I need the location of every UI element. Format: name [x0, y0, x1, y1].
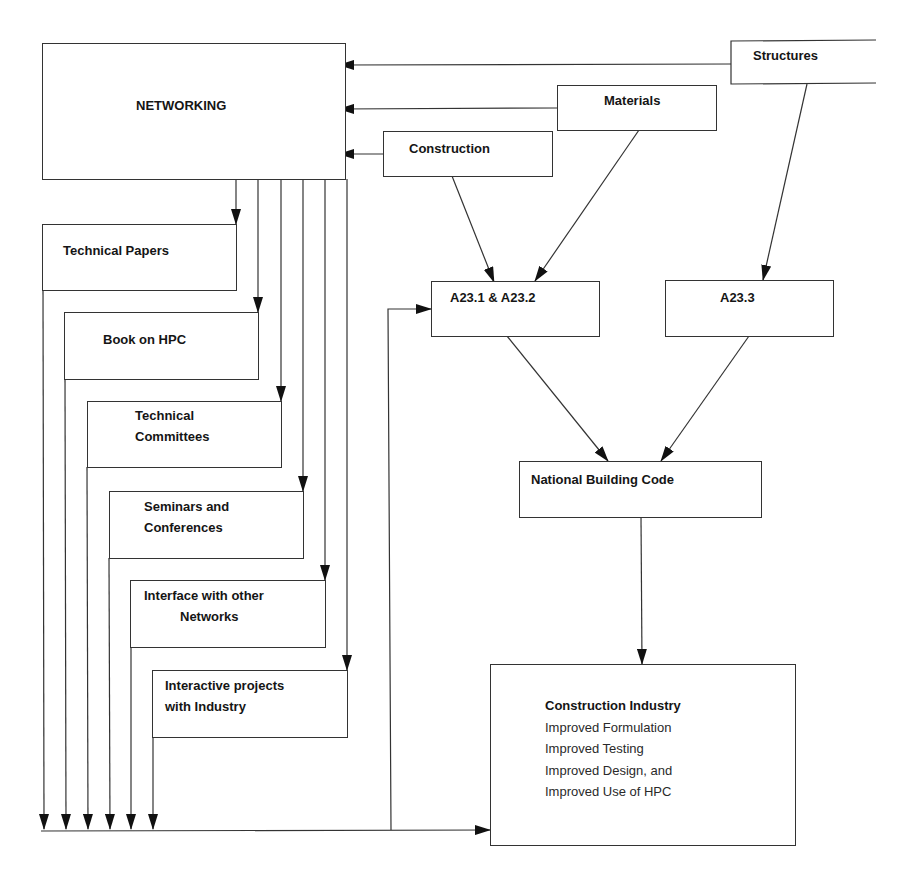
ci-item: Improved Use of HPC: [545, 781, 681, 803]
ci-item: Improved Formulation: [545, 717, 681, 739]
a23-3-box: A23.3: [665, 280, 834, 337]
technical-committees-line2: Committees: [135, 427, 209, 446]
interactive-line1: Interactive projects: [165, 676, 284, 695]
ci-item: Improved Design, and: [545, 760, 681, 782]
structures-label: Structures: [753, 46, 818, 65]
technical-papers-label: Technical Papers: [63, 241, 169, 260]
technical-papers-box: Technical Papers: [42, 224, 237, 291]
interface-line1: Interface with other: [144, 586, 264, 605]
seminars-line1: Seminars and: [144, 497, 229, 516]
materials-box: Materials: [557, 85, 717, 131]
arrow-bus-to-a23-1: [388, 309, 431, 830]
arrow-structures-to-networking: [339, 64, 731, 65]
ci-item: Improved Testing: [545, 738, 681, 760]
technical-committees-box: Technical Committees: [87, 401, 282, 468]
interface-box: Interface with other Networks: [130, 580, 326, 648]
a23-1-a23-2-label: A23.1 & A23.2: [450, 288, 536, 307]
interface-line2: Networks: [180, 607, 239, 626]
construction-label: Construction: [409, 139, 490, 158]
arrow-materials-to-networking: [339, 108, 557, 109]
book-on-hpc-box: Book on HPC: [64, 312, 259, 380]
interactive-box: Interactive projects with Industry: [152, 670, 348, 738]
seminars-box: Seminars and Conferences: [109, 491, 304, 559]
arrow-bus-to-construction-industry: [41, 830, 490, 831]
interactive-line2: with Industry: [165, 697, 246, 716]
construction-industry-text: Construction Industry Improved Formulati…: [545, 695, 681, 803]
technical-committees-line1: Technical: [135, 406, 194, 425]
national-building-code-box: National Building Code: [519, 461, 762, 518]
construction-box: Construction: [383, 131, 553, 177]
networking-box: NETWORKING: [42, 43, 346, 180]
a23-3-label: A23.3: [720, 288, 755, 307]
materials-label: Materials: [604, 91, 660, 110]
a23-1-a23-2-box: A23.1 & A23.2: [431, 281, 600, 337]
seminars-line2: Conferences: [144, 518, 223, 537]
networking-label: NETWORKING: [136, 96, 226, 115]
book-on-hpc-label: Book on HPC: [103, 330, 186, 349]
national-building-code-label: National Building Code: [531, 470, 674, 489]
construction-industry-title: Construction Industry: [545, 695, 681, 717]
construction-industry-box: Construction Industry Improved Formulati…: [490, 664, 796, 846]
